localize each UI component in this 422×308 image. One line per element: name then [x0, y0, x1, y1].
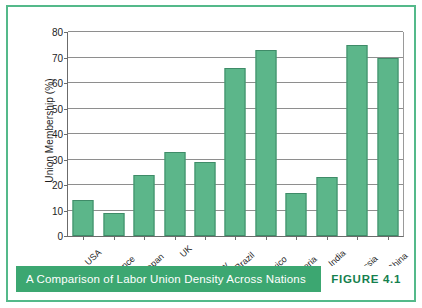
x-axis-tick-mark	[205, 236, 206, 240]
bar	[255, 50, 276, 236]
x-axis-tick-mark	[266, 236, 267, 240]
x-axis-tick-mark	[296, 236, 297, 240]
x-axis-tick-mark	[327, 236, 328, 240]
x-axis-tick-label: UK	[178, 243, 194, 259]
figure-caption-bar: A Comparison of Labor Union Density Acro…	[16, 266, 410, 292]
y-axis-tick-label: 20	[52, 180, 63, 191]
x-axis-tick-label: India	[332, 243, 353, 264]
bar-group: France	[98, 32, 128, 236]
bar	[134, 175, 155, 236]
x-axis-tick-label: China	[394, 243, 418, 266]
bar	[195, 162, 216, 236]
bar-chart: Union Membership (%) 01020304050607080 U…	[18, 15, 408, 273]
bar	[286, 193, 307, 236]
bar	[347, 45, 368, 236]
bar-group: Germany	[190, 32, 220, 236]
bar-group: USA	[68, 32, 98, 236]
x-axis-tick-mark	[357, 236, 358, 240]
bar	[103, 213, 124, 236]
x-axis-tick-mark	[144, 236, 145, 240]
y-axis-tick-mark	[64, 236, 68, 237]
x-axis-tick-label: Japan	[150, 243, 175, 267]
y-axis-tick-label: 40	[52, 129, 63, 140]
y-axis-tick-label: 10	[52, 205, 63, 216]
x-axis-tick-mark	[114, 236, 115, 240]
x-axis-tick-mark	[388, 236, 389, 240]
y-axis-tick-label: 50	[52, 103, 63, 114]
bar-group: India	[312, 32, 342, 236]
bar-group: China	[373, 32, 403, 236]
bars-layer: USAFranceJapanUKGermanyBrazilMexicoNiger…	[68, 32, 403, 236]
bar-group: Nigeria	[281, 32, 311, 236]
bar-group: Brazil	[220, 32, 250, 236]
figure-frame-border: Union Membership (%) 01020304050607080 U…	[6, 5, 416, 302]
x-axis-tick-mark	[83, 236, 84, 240]
y-axis-tick-label: 80	[52, 27, 63, 38]
figure-number-badge: FIGURE 4.1	[321, 266, 410, 292]
x-axis-tick-label: USA	[88, 243, 108, 263]
bar	[164, 152, 185, 236]
bar	[316, 177, 337, 236]
bar-group: UK	[159, 32, 189, 236]
bar-group: Russia	[342, 32, 372, 236]
x-axis-tick-mark	[175, 236, 176, 240]
y-axis-tick-label: 0	[57, 231, 63, 242]
y-axis-tick-label: 70	[52, 52, 63, 63]
plot-area: 01020304050607080 USAFranceJapanUKGerman…	[67, 32, 404, 237]
figure-number-label: FIGURE 4.1	[331, 273, 401, 285]
bar-group: Japan	[129, 32, 159, 236]
figure-caption-text: A Comparison of Labor Union Density Acro…	[16, 273, 306, 285]
y-axis-tick-label: 60	[52, 78, 63, 89]
x-axis-tick-mark	[235, 236, 236, 240]
bar	[73, 200, 94, 236]
figure-container: Union Membership (%) 01020304050607080 U…	[0, 0, 422, 308]
bar-group: Mexico	[251, 32, 281, 236]
bar	[377, 58, 398, 237]
y-axis-tick-label: 30	[52, 154, 63, 165]
bar	[225, 68, 246, 236]
